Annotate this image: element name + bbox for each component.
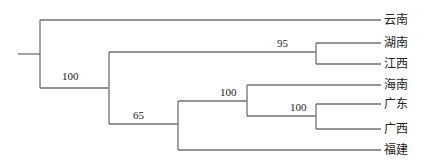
support-hainan-group: 100 [220,86,237,98]
tip-label-guangdong: 广东 [384,97,408,111]
phylogenetic-tree: 云南 湖南 江西 海南 广东 广西 福建 100 95 65 100 100 [0,0,424,164]
support-guangdong-guangxi: 100 [290,101,307,113]
support-hunan-jiangxi: 95 [277,37,289,49]
tip-label-fujian: 福建 [384,142,408,157]
tip-label-hunan: 湖南 [384,35,408,50]
support-root-lower-clade: 100 [62,70,79,82]
tip-label-yunnan: 云南 [384,12,408,27]
tip-label-jiangxi: 江西 [384,57,408,71]
tip-label-guangxi: 广西 [384,122,408,136]
tip-label-hainan: 海南 [384,77,408,92]
support-lower-clade: 65 [133,109,145,121]
